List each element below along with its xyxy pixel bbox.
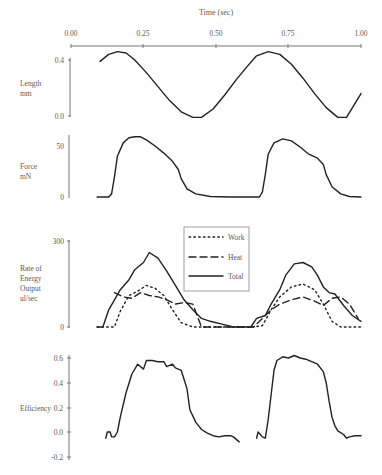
force-ylabel-unit: mN [20,172,32,181]
length-panel: Length mm 0.4 0.0 [20,52,361,121]
energy-ylabel: Output [20,284,42,293]
x-tick-label: 0.75 [281,29,294,38]
force-curve [97,137,361,197]
energy-panel: Rate of Energy Output ul/sec 300 0 Work … [20,227,361,332]
efficiency-ylabel: Efficiency [20,404,51,413]
legend-total-label: Total [228,272,243,281]
energy-ylabel-unit: ul/sec [20,294,38,303]
y-tick-label: 0 [60,323,64,332]
efficiency-curve-cycle-1 [106,361,239,442]
x-tick-label: 0.00 [64,29,77,38]
muscle-energetics-figure: Time (sec) 0.00 0.25 0.50 0.75 1.00 Leng… [0,0,382,475]
y-tick-label: 0.2 [54,404,64,413]
time-axis-title: Time (sec) [199,8,233,17]
y-tick-label: 0 [60,193,64,202]
y-tick-label: 0.6 [54,354,64,363]
force-panel: Force mN 50 0 [20,135,361,202]
y-tick-label: 50 [57,142,65,151]
efficiency-panel: Efficiency 0.6 0.4 0.2 0.0 -0.2 [20,354,361,462]
x-tick-label: 0.25 [136,29,149,38]
force-ylabel: Force [20,162,38,171]
y-tick-label: 300 [53,237,65,246]
efficiency-curve-cycle-2 [257,356,361,439]
length-ylabel: Length [20,79,41,88]
energy-ylabel: Energy [20,274,42,283]
y-tick-label: -0.2 [51,453,63,462]
x-tick-label: 1.00 [354,29,367,38]
y-tick-label: 0.0 [54,428,64,437]
energy-ylabel: Rate of [20,264,42,273]
x-tick-label: 0.50 [209,29,222,38]
y-tick-label: 0.4 [54,379,64,388]
legend-work-label: Work [228,233,245,242]
heat-curve [115,293,359,327]
length-ylabel-unit: mm [20,89,32,98]
y-tick-label: 0.4 [55,56,65,65]
y-tick-label: 0.0 [55,112,65,121]
time-axis: Time (sec) 0.00 0.25 0.50 0.75 1.00 [64,8,367,48]
legend-heat-label: Heat [228,253,243,262]
length-curve [100,52,361,118]
legend: Work Heat Total [184,227,249,291]
